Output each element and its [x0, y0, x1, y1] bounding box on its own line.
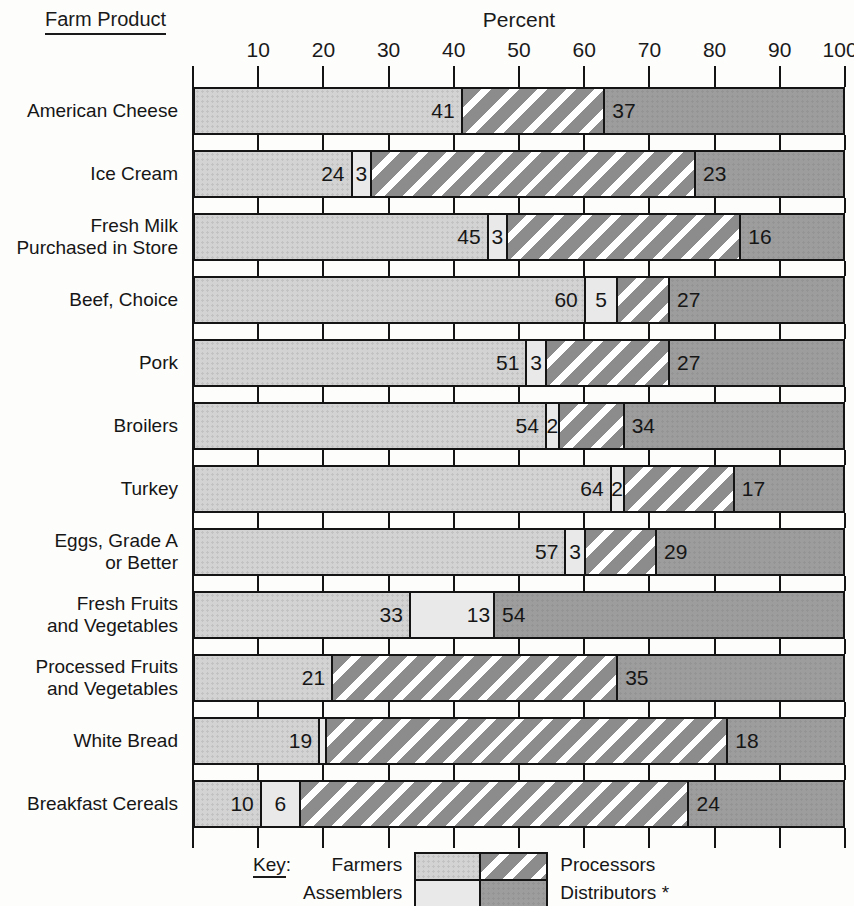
grid-line — [518, 702, 520, 717]
grid-line — [388, 702, 390, 717]
grid-line — [257, 198, 259, 213]
bar-row: 51327 — [193, 339, 845, 387]
grid-line — [388, 513, 390, 528]
x-tick-label: 10 — [247, 38, 270, 62]
grid-line — [388, 261, 390, 276]
legend-label-assemblers: Assemblers — [303, 879, 402, 906]
category-label: Breakfast Cereals — [0, 780, 186, 828]
grid-line — [714, 702, 716, 717]
grid-line — [388, 387, 390, 402]
grid-line — [388, 135, 390, 150]
grid-line — [844, 576, 846, 591]
x-tick-label: 40 — [442, 38, 465, 62]
bar-segment-distributors: 54 — [493, 593, 843, 637]
grid-line — [583, 576, 585, 591]
grid-line — [453, 324, 455, 339]
grid-line — [388, 450, 390, 465]
segment-value-label: 51 — [496, 351, 525, 375]
grid-line — [714, 261, 716, 276]
segment-value-label: 24 — [689, 792, 719, 816]
segment-value-label: 18 — [728, 729, 758, 753]
grid-line — [714, 576, 716, 591]
bar-segment-farmers: 19 — [195, 719, 318, 763]
grid-line — [453, 639, 455, 654]
bar-segment-farmers: 33 — [195, 593, 409, 637]
x-tick — [583, 828, 585, 848]
grid-line — [322, 513, 324, 528]
grid-line — [583, 387, 585, 402]
grid-line — [779, 450, 781, 465]
segment-value-label: 64 — [580, 477, 609, 501]
grid-line — [453, 387, 455, 402]
bar-row: 4137 — [193, 87, 845, 135]
legend-right-labels: Processors Distributors * — [560, 851, 669, 906]
grid-line — [518, 135, 520, 150]
grid-line — [257, 261, 259, 276]
category-label: White Bread — [0, 717, 186, 765]
category-label: Fresh Fruits and Vegetables — [0, 591, 186, 639]
grid-line — [583, 765, 585, 780]
grid-line — [518, 513, 520, 528]
x-tick-label: 60 — [573, 38, 596, 62]
grid-line — [714, 765, 716, 780]
grid-line — [322, 702, 324, 717]
bar-segment-processors — [299, 782, 688, 826]
grid-line — [518, 576, 520, 591]
legend-label-distributors: Distributors * — [560, 879, 669, 906]
bar-segment-assemblers: 13 — [409, 593, 493, 637]
grid-line — [844, 387, 846, 402]
segment-value-label: 3 — [355, 162, 367, 186]
bar-segment-processors — [461, 89, 604, 133]
grid-line — [322, 135, 324, 150]
category-label: Processed Fruits and Vegetables — [0, 654, 186, 702]
grid-line — [714, 135, 716, 150]
grid-line — [648, 639, 650, 654]
chart: Farm Product Percent 1020304050607080901… — [0, 0, 854, 906]
x-tick-label: 90 — [768, 38, 791, 62]
grid-line — [844, 198, 846, 213]
bar-segment-distributors: 37 — [603, 89, 843, 133]
segment-value-label: 21 — [302, 666, 331, 690]
grid-line — [648, 135, 650, 150]
x-tick — [779, 66, 781, 87]
grid-line — [779, 639, 781, 654]
grid-line — [453, 576, 455, 591]
grid-line — [322, 387, 324, 402]
segment-value-label: 3 — [491, 225, 503, 249]
grid-line — [844, 135, 846, 150]
bar-segment-processors — [506, 215, 739, 259]
grid-line — [714, 450, 716, 465]
segment-value-label: 27 — [670, 351, 700, 375]
segment-value-label: 16 — [741, 225, 771, 249]
grid-line — [322, 198, 324, 213]
legend-label-farmers: Farmers — [332, 851, 403, 879]
category-label: Turkey — [0, 465, 186, 513]
bar-segment-farmers: 54 — [195, 404, 545, 448]
bar-segment-assemblers: 5 — [584, 278, 616, 322]
grid-line — [518, 387, 520, 402]
grid-line — [648, 198, 650, 213]
bar-row: 24323 — [193, 150, 845, 198]
x-tick — [779, 828, 781, 848]
segment-value-label: 27 — [670, 288, 700, 312]
grid-line — [844, 450, 846, 465]
bar-row: 45316 — [193, 213, 845, 261]
segment-value-label: 54 — [495, 603, 525, 627]
x-tick-label: 80 — [703, 38, 726, 62]
legend-swatch-farmers — [416, 854, 481, 881]
grid-line — [257, 387, 259, 402]
bar-segment-farmers: 51 — [195, 341, 525, 385]
bar-segment-distributors: 35 — [616, 656, 843, 700]
grid-line — [257, 450, 259, 465]
bar-segment-distributors: 23 — [694, 152, 843, 196]
bar-segment-distributors: 18 — [726, 719, 843, 763]
category-label: Broilers — [0, 402, 186, 450]
segment-value-label: 5 — [595, 288, 607, 312]
category-label: American Cheese — [0, 87, 186, 135]
legend-swatches — [414, 852, 548, 906]
segment-value-label: 45 — [457, 225, 486, 249]
x-tick — [453, 828, 455, 848]
grid-line — [388, 765, 390, 780]
bar-segment-assemblers: 3 — [564, 530, 583, 574]
category-label: Ice Cream — [0, 150, 186, 198]
